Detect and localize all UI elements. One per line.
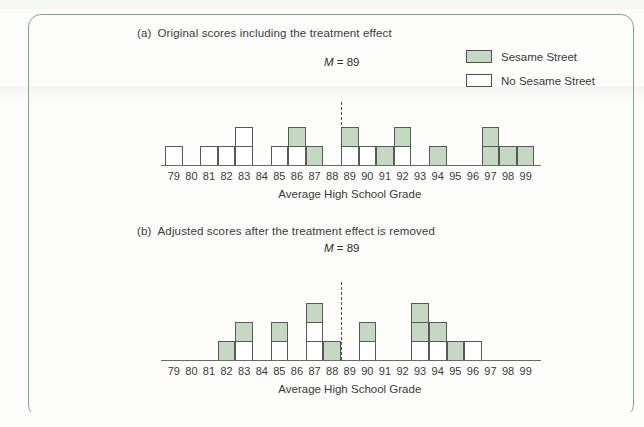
axis-tick-label: 93 [411, 170, 429, 182]
panel-a-mean-label: M = 89 [324, 56, 360, 68]
axis-tick-label: 99 [517, 365, 535, 377]
legend-item: Sesame Street [466, 50, 595, 63]
histogram-bin [499, 146, 517, 165]
panel-b-histogram: M = 89 798081828384858687888990919293949… [165, 280, 535, 375]
panel-a-tick-labels: 7980818283848586878889909192939495969798… [165, 170, 535, 182]
histogram-cell-no-sesame-street [429, 341, 447, 361]
histogram-cell-sesame-street [499, 146, 517, 166]
panel-a-caption: (a)Original scores including the treatme… [137, 27, 392, 39]
histogram-bin [429, 146, 447, 165]
axis-tick-label: 91 [376, 365, 394, 377]
histogram-bin [271, 322, 289, 360]
legend: Sesame Street No Sesame Street [466, 50, 595, 87]
axis-tick-label: 81 [200, 365, 218, 377]
panel-b-tick-labels: 7980818283848586878889909192939495969798… [165, 365, 535, 377]
axis-tick-label: 92 [394, 365, 412, 377]
histogram-cell-no-sesame-street [235, 127, 253, 147]
histogram-bin [464, 341, 482, 360]
axis-tick-label: 83 [235, 170, 253, 182]
axis-tick-label: 96 [464, 365, 482, 377]
histogram-cell-sesame-street [306, 303, 324, 323]
axis-tick-label: 94 [429, 170, 447, 182]
axis-tick-label: 99 [517, 170, 535, 182]
histogram-cell-sesame-street [482, 146, 500, 166]
axis-tick-label: 96 [464, 170, 482, 182]
axis-tick-label: 88 [323, 365, 341, 377]
axis-tick-label: 85 [271, 365, 289, 377]
histogram-cell-no-sesame-street [271, 341, 289, 361]
axis-tick-label: 95 [447, 365, 465, 377]
axis-tick-label: 92 [394, 170, 412, 182]
histogram-bin [306, 303, 324, 360]
histogram-cell-no-sesame-street [288, 146, 306, 166]
histogram-cell-sesame-street [411, 322, 429, 342]
axis-tick-label: 79 [165, 365, 183, 377]
histogram-cell-no-sesame-street [271, 146, 289, 166]
panel-a-tag: (a) [137, 27, 152, 39]
histogram-bin [341, 127, 359, 165]
scanned-page: (a)Original scores including the treatme… [0, 0, 644, 427]
panel-b-caption: (b)Adjusted scores after the treatment e… [137, 225, 435, 237]
histogram-cell-sesame-street [235, 322, 253, 342]
histogram-cell-no-sesame-street [165, 146, 183, 166]
panel-b-mean-label: M = 89 [324, 242, 360, 254]
histogram-cell-sesame-street [517, 146, 535, 166]
histogram-cell-sesame-street [411, 303, 429, 323]
axis-tick-label: 91 [376, 170, 394, 182]
axis-tick-label: 84 [253, 170, 271, 182]
histogram-bin [235, 127, 253, 165]
histogram-cell-no-sesame-street [341, 146, 359, 166]
legend-label-sesame-street: Sesame Street [501, 51, 577, 63]
axis-tick-label: 82 [218, 170, 236, 182]
histogram-bin [323, 341, 341, 360]
axis-tick-label: 93 [411, 365, 429, 377]
axis-tick-label: 86 [288, 365, 306, 377]
histogram-cell-sesame-street [218, 341, 236, 361]
legend-swatch-no-sesame-street [466, 74, 492, 87]
panel-a-caption-text: Original scores including the treatment … [158, 27, 392, 39]
legend-label-no-sesame-street: No Sesame Street [501, 75, 595, 87]
panel-a-axis-line [161, 165, 541, 166]
axis-tick-label: 98 [499, 170, 517, 182]
legend-swatch-sesame-street [466, 50, 492, 63]
histogram-bin [517, 146, 535, 165]
axis-tick-label: 81 [200, 170, 218, 182]
histogram-cell-sesame-street [394, 127, 412, 147]
panel-b-bars [165, 300, 535, 360]
histogram-cell-no-sesame-street [411, 341, 429, 361]
histogram-cell-sesame-street [306, 146, 324, 166]
panel-a-bars [165, 125, 535, 165]
histogram-cell-sesame-street [447, 341, 465, 361]
histogram-bin [271, 146, 289, 165]
axis-tick-label: 89 [341, 170, 359, 182]
axis-tick-label: 90 [359, 365, 377, 377]
panel-a-axis-title: Average High School Grade [165, 188, 535, 200]
histogram-cell-no-sesame-street [464, 341, 482, 361]
axis-tick-label: 83 [235, 365, 253, 377]
histogram-cell-sesame-street [429, 322, 447, 342]
histogram-bin [306, 146, 324, 165]
histogram-cell-no-sesame-street [235, 146, 253, 166]
axis-tick-label: 80 [183, 170, 201, 182]
histogram-bin [235, 322, 253, 360]
panel-a-histogram: M = 89 798081828384858687888990919293949… [165, 100, 535, 170]
axis-tick-label: 90 [359, 170, 377, 182]
histogram-cell-sesame-street [323, 341, 341, 361]
axis-tick-label: 87 [306, 170, 324, 182]
histogram-bin [218, 146, 236, 165]
histogram-bin [359, 322, 377, 360]
axis-tick-label: 95 [447, 170, 465, 182]
axis-tick-label: 97 [482, 170, 500, 182]
axis-tick-label: 87 [306, 365, 324, 377]
histogram-bin [411, 303, 429, 360]
histogram-cell-sesame-street [359, 322, 377, 342]
axis-tick-label: 97 [482, 365, 500, 377]
axis-tick-label: 88 [323, 170, 341, 182]
axis-tick-label: 80 [183, 365, 201, 377]
histogram-cell-no-sesame-street [394, 146, 412, 166]
axis-tick-label: 89 [341, 365, 359, 377]
histogram-cell-sesame-street [376, 146, 394, 166]
histogram-cell-sesame-street [288, 127, 306, 147]
axis-tick-label: 98 [499, 365, 517, 377]
histogram-cell-sesame-street [482, 127, 500, 147]
